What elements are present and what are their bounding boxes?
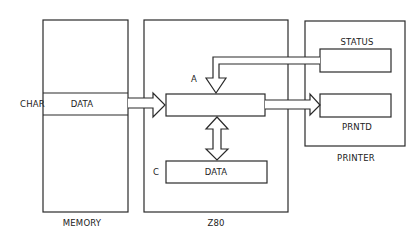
register-c-label: C [153,168,159,177]
memory-block [43,20,128,212]
prntd-port-label: PRNTD [342,123,372,132]
register-c-data-label: DATA [205,168,228,177]
z80-label: Z80 [207,219,224,228]
char-pointer-label: CHAR [20,100,45,109]
prntd-port-box [320,94,391,117]
a-c-double-arrow [206,117,228,160]
status-to-a-arrow [206,57,320,93]
status-port-label: STATUS [340,38,373,47]
a-to-prntd-arrow [265,94,320,115]
memory-to-a-arrow [128,93,165,117]
status-port-box [320,49,391,72]
memory-data-label: DATA [71,100,94,109]
register-a-box [166,94,265,116]
memory-label: MEMORY [63,219,101,228]
register-a-label: A [191,75,197,84]
printer-label: PRINTER [337,154,375,163]
